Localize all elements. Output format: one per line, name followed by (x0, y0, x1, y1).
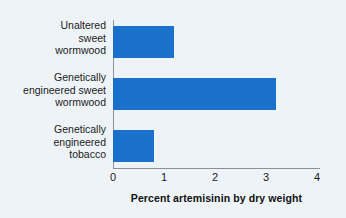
bar-chart: Unaltered sweet wormwood Genetically eng… (0, 0, 346, 218)
x-tick-3: 3 (254, 171, 278, 183)
x-tick-2: 2 (203, 171, 227, 183)
category-label-genetically-engineered-tobacco: Genetically engineered tobacco (0, 123, 106, 161)
plot-area (113, 20, 320, 168)
x-tick-0: 0 (101, 171, 125, 183)
bar-unaltered-sweet-wormwood (113, 26, 174, 58)
x-tick-1: 1 (152, 171, 176, 183)
category-label-genetically-engineered-sweet-wormwood: Genetically engineered sweet wormwood (0, 71, 106, 109)
bar-row-1 (113, 78, 320, 110)
bar-row-2 (113, 130, 320, 162)
bar-genetically-engineered-tobacco (113, 130, 154, 162)
x-tick-4: 4 (305, 171, 329, 183)
bar-genetically-engineered-sweet-wormwood (113, 78, 276, 110)
x-axis-title: Percent artemisinin by dry weight (113, 192, 320, 204)
bar-row-0 (113, 26, 320, 58)
x-axis-line (113, 168, 320, 169)
category-label-unaltered-sweet-wormwood: Unaltered sweet wormwood (0, 19, 106, 57)
